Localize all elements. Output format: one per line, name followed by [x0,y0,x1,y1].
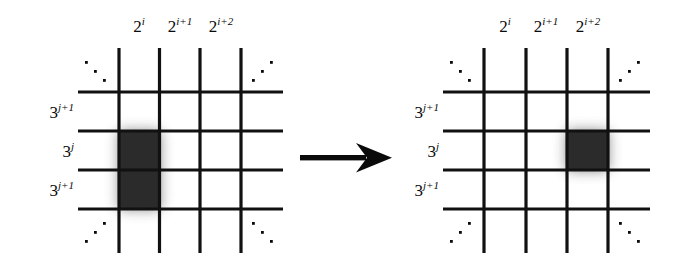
column-label-1-before: 2i+1 [168,18,192,35]
corner-ellipsis-top-left-before [85,61,106,82]
corner-ellipsis-bottom-right-after [619,222,640,243]
after-grid-panel: 2i 2i+1 2i+2 3j+1 3j 3j+1 [365,0,686,270]
row-label-2-after: 3j+1 [415,182,439,199]
before-grid-panel: 2i 2i+1 2i+2 3j+1 3j 3j+1 [0,0,300,270]
column-label-0-after: 2i [499,18,511,35]
figure-root: 2i 2i+1 2i+2 3j+1 3j 3j+1 [0,0,686,270]
corner-ellipsis-bottom-left-before [85,222,106,243]
before-grid-graphic [0,0,300,270]
corner-ellipsis-top-right-before [252,61,273,82]
column-label-0-before: 2i [133,18,145,35]
corner-ellipsis-top-right-after [619,61,640,82]
horizontal-grid-lines-before [78,92,283,209]
row-label-1-before: 3j [62,143,74,160]
arrow-shaft [300,155,366,160]
column-label-2-after: 2i+2 [576,18,600,35]
column-label-2-before: 2i+2 [209,18,233,35]
row-label-2-before: 3j+1 [50,182,74,199]
corner-ellipsis-bottom-left-after [450,222,471,243]
row-label-0-after: 3j+1 [415,104,439,121]
column-label-1-after: 2i+1 [534,18,558,35]
row-label-1-after: 3j [427,143,439,160]
horizontal-grid-lines-after [443,92,650,209]
corner-ellipsis-bottom-right-before [252,222,273,243]
row-label-0-before: 3j+1 [50,104,74,121]
after-grid-graphic [365,0,686,270]
shaded-cells-after [567,131,608,170]
corner-ellipsis-top-left-after [450,61,471,82]
